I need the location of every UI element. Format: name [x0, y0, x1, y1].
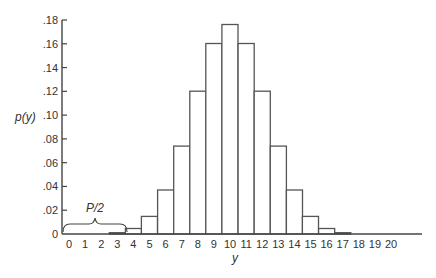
y-tick-label: .10 — [43, 109, 58, 121]
bar-y-16 — [319, 229, 335, 235]
y-axis-label: p(y) — [14, 110, 36, 124]
y-tick-label: .06 — [43, 157, 58, 169]
x-tick-label: 5 — [146, 238, 152, 250]
y-tick-label: .16 — [43, 38, 58, 50]
brace-annotation: P/2 — [86, 201, 104, 215]
bar-y-8 — [190, 91, 206, 234]
bar-y-5 — [141, 216, 157, 234]
y-tick-label: 0 — [52, 228, 58, 240]
bar-y-13 — [270, 146, 286, 234]
histogram-chart: 0.02.04.06.08.10.12.14.16.18 01234567891… — [0, 0, 436, 278]
x-tick-label: 10 — [224, 238, 236, 250]
y-ticks: 0.02.04.06.08.10.12.14.16.18 — [43, 14, 67, 240]
x-tick-label: 17 — [337, 238, 349, 250]
y-tick-label: .12 — [43, 85, 58, 97]
bar-y-7 — [174, 146, 190, 234]
x-tick-label: 19 — [369, 238, 381, 250]
bar-y-15 — [302, 216, 318, 234]
x-tick-label: 11 — [240, 238, 251, 250]
x-axis-label: y — [231, 251, 239, 265]
x-tick-label: 3 — [114, 238, 120, 250]
bar-y-6 — [158, 190, 174, 234]
x-tick-label: 15 — [304, 238, 316, 250]
x-tick-label: 9 — [211, 238, 217, 250]
y-tick-label: .18 — [43, 14, 58, 26]
bars-group — [109, 25, 351, 235]
x-tick-label: 4 — [130, 238, 136, 250]
x-tick-label: 2 — [98, 238, 104, 250]
y-tick-label: .04 — [43, 180, 58, 192]
bar-y-10 — [222, 25, 238, 235]
tail-brace — [63, 218, 127, 232]
x-tick-label: 8 — [195, 238, 201, 250]
y-tick-label: .08 — [43, 133, 58, 145]
x-tick-label: 14 — [288, 238, 300, 250]
bar-y-4 — [125, 229, 141, 235]
bar-y-12 — [254, 91, 270, 234]
x-tick-label: 18 — [353, 238, 365, 250]
y-tick-label: .02 — [43, 204, 58, 216]
x-tick-label: 6 — [163, 238, 169, 250]
x-tick-label: 13 — [272, 238, 284, 250]
x-tick-label: 7 — [179, 238, 185, 250]
x-tick-label: 1 — [82, 238, 88, 250]
bar-y-14 — [286, 190, 302, 234]
x-tick-label: 16 — [320, 238, 332, 250]
y-tick-label: .14 — [43, 62, 58, 74]
x-tick-label: 12 — [256, 238, 268, 250]
bar-y-9 — [206, 44, 222, 235]
x-tick-label: 20 — [385, 238, 397, 250]
x-ticks: 01234567891011121314151617181920 — [66, 238, 397, 250]
bar-y-11 — [238, 44, 254, 235]
x-tick-label: 0 — [66, 238, 72, 250]
